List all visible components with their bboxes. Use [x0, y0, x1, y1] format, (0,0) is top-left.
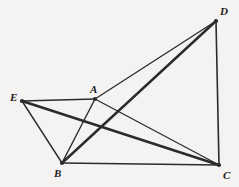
segment-bd: [62, 21, 216, 163]
vertex-point-e: [20, 99, 24, 103]
vertex-point-d: [214, 19, 218, 23]
vertex-point-a: [93, 97, 97, 101]
vertex-label-d: D: [220, 6, 228, 17]
vertex-label-b: B: [54, 168, 61, 179]
segment-ea: [22, 99, 95, 101]
segments-group: [22, 21, 219, 165]
vertex-label-c: C: [223, 170, 230, 181]
segment-bc: [62, 163, 219, 165]
figure-canvas: [0, 0, 239, 187]
segment-ab: [62, 99, 95, 163]
vertex-point-c: [217, 163, 221, 167]
vertex-label-e: E: [10, 92, 17, 103]
vertex-label-a: A: [90, 84, 97, 95]
geometry-figure: ABCDE: [0, 0, 239, 187]
segment-eb: [22, 101, 62, 163]
vertex-point-b: [60, 161, 64, 165]
segment-ad: [95, 21, 216, 99]
segment-dc: [216, 21, 219, 165]
